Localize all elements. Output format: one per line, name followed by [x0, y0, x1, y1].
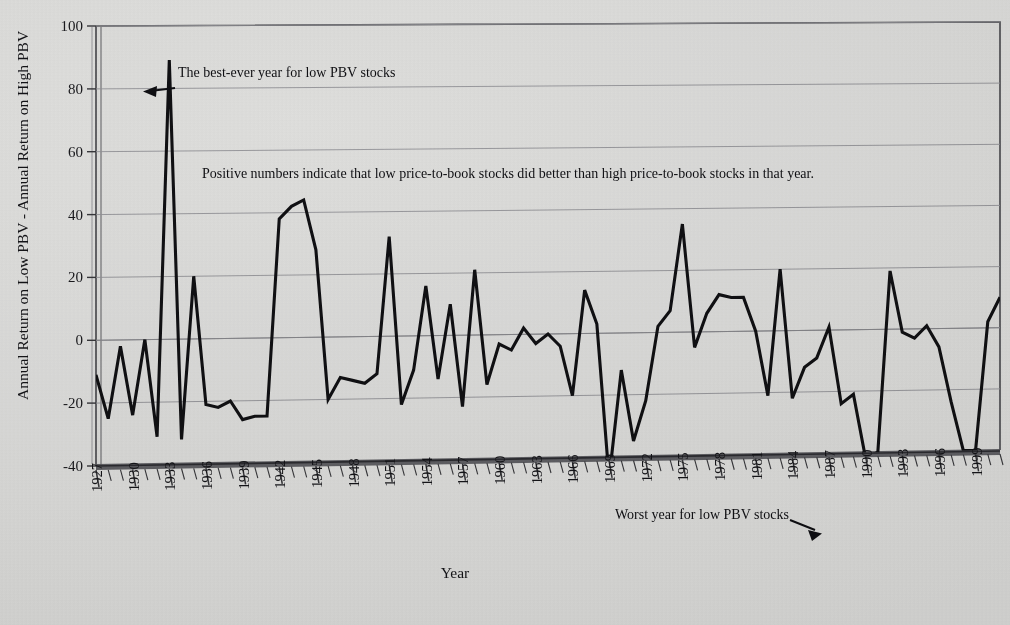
x-tick-label: 1993	[895, 449, 911, 478]
x-tick-label: 1999	[969, 447, 985, 476]
x-tick-mark	[817, 457, 820, 468]
x-tick-mark	[145, 469, 148, 480]
x-tick-mark	[963, 455, 966, 466]
annotation-worst-year-text: Worst year for low PBV stocks	[615, 507, 789, 522]
x-tick-mark	[108, 470, 111, 481]
x-tick-mark	[805, 457, 808, 468]
x-tick-label: 1990	[859, 449, 875, 478]
x-tick-mark	[731, 459, 734, 470]
x-tick-mark	[890, 456, 893, 467]
annotation-best-year-text: The best-ever year for low PBV stocks	[178, 65, 395, 80]
x-tick-label: 1981	[749, 451, 765, 480]
x-tick-mark	[780, 458, 783, 469]
x-tick-mark	[120, 470, 123, 481]
y-tick-label: 20	[68, 269, 83, 285]
x-tick-mark	[695, 459, 698, 470]
x-tick-mark	[1000, 454, 1003, 465]
x-tick-mark	[878, 456, 881, 467]
x-tick-mark	[597, 461, 600, 472]
x-tick-label: 1942	[272, 460, 288, 489]
x-tick-label: 1927	[89, 463, 105, 492]
x-tick-mark	[450, 464, 453, 475]
x-tick-mark	[377, 465, 380, 476]
chart-canvas: 100 80 60 40 20 0 -20 -40 Annual Return …	[0, 0, 1010, 625]
y-tick-label: 60	[68, 144, 83, 160]
x-tick-mark	[743, 459, 746, 470]
x-tick-mark	[621, 461, 624, 472]
x-tick-label: 1963	[529, 455, 545, 484]
x-tick-mark	[182, 468, 185, 479]
x-tick-mark	[340, 466, 343, 477]
x-tick-mark	[658, 460, 661, 471]
x-tick-mark	[768, 458, 771, 469]
x-tick-label: 1969	[602, 454, 618, 483]
x-tick-mark	[438, 464, 441, 475]
x-tick-label: 1996	[932, 448, 948, 477]
x-tick-mark	[988, 454, 991, 465]
x-tick-label: 1978	[712, 452, 728, 481]
x-tick-label: 1984	[785, 450, 801, 480]
x-tick-mark	[194, 468, 197, 479]
x-tick-mark	[304, 466, 307, 477]
y-tick-label: 0	[76, 332, 84, 348]
x-tick-label: 1945	[309, 459, 325, 488]
x-tick-label: 1939	[236, 460, 252, 489]
x-tick-mark	[267, 467, 270, 478]
x-tick-mark	[487, 463, 490, 474]
x-tick-mark	[585, 461, 588, 472]
x-tick-label: 1933	[162, 462, 178, 491]
y-tick-labels: 100 80 60 40 20 0 -20 -40	[61, 18, 84, 474]
x-tick-label: 1960	[492, 456, 508, 485]
x-tick-label: 1954	[419, 456, 435, 486]
y-tick-label: 100	[61, 18, 84, 34]
x-tick-mark	[853, 457, 856, 468]
x-tick-mark	[548, 462, 551, 473]
x-tick-mark	[524, 462, 527, 473]
y-tick-label: 40	[68, 207, 83, 223]
x-tick-label: 1966	[565, 455, 581, 484]
x-tick-mark	[707, 459, 710, 470]
x-tick-label: 1930	[126, 462, 142, 491]
x-tick-mark	[475, 463, 478, 474]
x-tick-mark	[401, 465, 404, 476]
annotation-worst-year-arrow	[790, 520, 822, 541]
x-tick-mark	[634, 460, 637, 471]
y-tick-label: 80	[68, 81, 83, 97]
x-tick-label: 1951	[382, 458, 398, 487]
x-tick-mark	[255, 467, 258, 478]
y-tick-marks	[87, 26, 96, 466]
y-axis-title: Annual Return on Low PBV - Annual Return…	[14, 30, 31, 400]
x-tick-mark	[560, 462, 563, 473]
x-tick-mark	[291, 467, 294, 478]
x-tick-label: 1987	[822, 450, 838, 479]
x-tick-mark	[927, 455, 930, 466]
x-axis-title: Year	[441, 564, 470, 581]
y-tick-label: -20	[63, 395, 83, 411]
x-tick-mark	[365, 465, 368, 476]
x-tick-label: 1957	[455, 457, 471, 486]
plot-area-background	[96, 22, 1000, 466]
x-tick-label: 1975	[675, 453, 691, 482]
y-tick-label: -40	[63, 458, 83, 474]
x-tick-mark	[414, 464, 417, 475]
x-tick-mark	[230, 468, 233, 479]
x-tick-label: 1972	[639, 453, 655, 482]
x-tick-mark	[914, 456, 917, 467]
x-tick-label: 1948	[346, 458, 362, 487]
annotation-positive-note: Positive numbers indicate that low price…	[202, 166, 814, 181]
x-tick-mark	[328, 466, 331, 477]
x-tick-mark	[511, 463, 514, 474]
x-tick-mark	[951, 455, 954, 466]
x-tick-label: 1936	[199, 461, 215, 490]
x-tick-mark	[218, 468, 221, 479]
x-tick-mark	[157, 469, 160, 480]
x-tick-mark	[670, 460, 673, 471]
x-tick-mark	[841, 457, 844, 468]
